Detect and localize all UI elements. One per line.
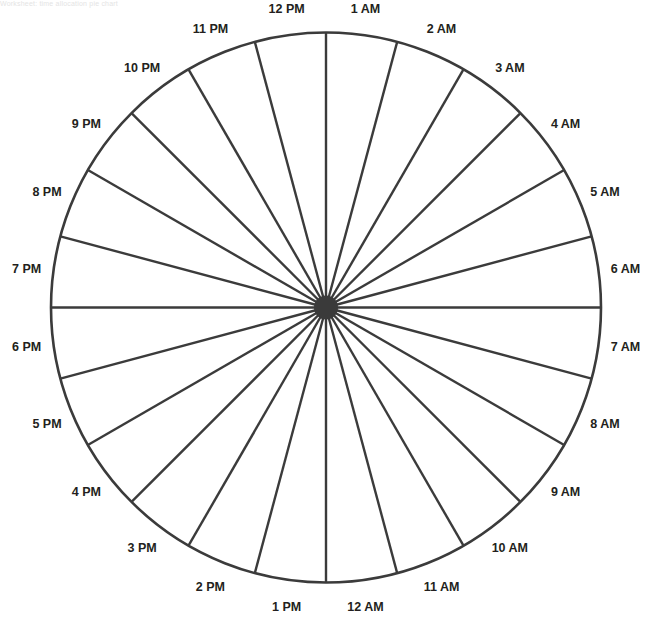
hour-label: 1 PM xyxy=(272,600,301,614)
segment-divider xyxy=(88,170,326,308)
hour-label: 12 AM xyxy=(347,600,383,614)
segment-divider xyxy=(326,69,464,307)
segment-divider xyxy=(132,308,326,502)
segment-divider xyxy=(326,308,520,502)
segment-divider xyxy=(326,308,464,546)
segment-divider xyxy=(326,42,397,308)
segment-divider xyxy=(326,236,592,307)
segment-divider xyxy=(326,308,564,446)
hour-label: 4 AM xyxy=(551,117,580,131)
hour-label: 3 PM xyxy=(128,541,157,555)
segment-divider xyxy=(326,113,520,307)
hour-label: 7 PM xyxy=(12,262,41,276)
segment-divider xyxy=(255,42,326,308)
segment-divider xyxy=(326,308,592,379)
hour-label: 8 AM xyxy=(590,417,619,431)
hour-label: 6 PM xyxy=(12,340,41,354)
segment-divider xyxy=(189,308,327,546)
hour-label: 12 PM xyxy=(269,2,305,16)
center-hub xyxy=(314,296,338,320)
hour-label: 1 AM xyxy=(351,2,380,16)
hour-label: 10 AM xyxy=(492,541,528,555)
hour-label: 5 PM xyxy=(32,417,61,431)
hour-label: 11 PM xyxy=(193,22,228,36)
segment-divider xyxy=(60,236,326,307)
hour-label: 3 AM xyxy=(495,61,524,75)
segment-divider xyxy=(326,308,397,574)
hour-label: 10 PM xyxy=(124,61,160,75)
hour-label: 7 AM xyxy=(611,340,640,354)
hour-label: 2 AM xyxy=(427,22,456,36)
segment-divider xyxy=(255,308,326,574)
hour-label: 11 AM xyxy=(424,580,460,594)
hour-label: 8 PM xyxy=(32,185,61,199)
hour-label: 6 AM xyxy=(611,262,640,276)
hour-label: 4 PM xyxy=(72,485,101,499)
hour-label: 2 PM xyxy=(196,580,225,594)
hour-label: 9 AM xyxy=(551,485,580,499)
hour-label: 5 AM xyxy=(590,185,619,199)
segment-divider xyxy=(60,308,326,379)
hour-label: 9 PM xyxy=(72,117,101,131)
segment-divider xyxy=(189,69,327,307)
segment-divider xyxy=(88,308,326,446)
segment-divider xyxy=(132,113,326,307)
segment-divider xyxy=(326,170,564,308)
24-hour-pie-chart: 1 AM2 AM3 AM4 AM5 AM6 AM7 AM8 AM9 AM10 A… xyxy=(0,0,650,617)
